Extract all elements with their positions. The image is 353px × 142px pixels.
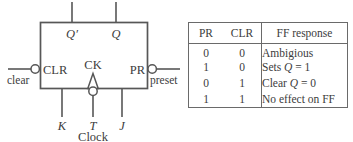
cell-pr: 0 [189,44,224,60]
cell-clr: 1 [223,76,262,92]
ck-port-label: CK [84,58,101,72]
response-variable: Q [290,77,298,89]
table-row: 1 1 No effect on FF [189,92,348,108]
clr-port-label: CLR [43,63,68,77]
table-row: 1 0 Sets Q = 1 [189,60,348,76]
pr-port-label: PR [130,63,146,77]
cell-response: Ambigious [262,44,348,60]
j-input-label: J [119,119,126,133]
q-output-label: Q [111,27,120,41]
header-clr: CLR [223,23,262,44]
cell-clr: 0 [223,60,262,76]
header-ff-response: FF response [262,23,348,44]
cell-response: Sets Q = 1 [262,60,348,76]
table-row: 0 1 Clear Q = 0 [189,76,348,92]
clear-wire-label: clear [7,74,30,86]
table-body: 0 0 Ambigious 1 0 Sets Q = 1 0 1 Clear Q… [189,44,348,108]
response-suffix: = 1 [292,61,310,73]
response-prefix: Sets [262,61,284,73]
ff-response-table: PR CLR FF response 0 0 Ambigious 1 0 Set… [188,22,348,108]
cell-response: Clear Q = 0 [262,76,348,92]
q-not-output-label: Q′ [66,27,78,41]
figure-root: Q′ Q CLR PR CK clear preset K T J Clock … [0,0,353,142]
cell-pr: 0 [189,76,224,92]
preset-inversion-bubble-icon [148,65,156,73]
cell-clr: 0 [223,44,262,60]
table-header-row: PR CLR FF response [189,23,348,44]
response-suffix: = 0 [298,77,316,89]
ff-response-table-wrap: PR CLR FF response 0 0 Ambigious 1 0 Set… [188,22,345,108]
clock-inversion-bubble-icon [89,87,97,95]
clock-caption-label: Clock [78,130,109,142]
table-head: PR CLR FF response [189,23,348,44]
cell-clr: 1 [223,92,262,108]
header-pr: PR [189,23,224,44]
clear-inversion-bubble-icon [31,65,39,73]
clock-edge-triangle-icon [88,74,98,89]
cell-pr: 1 [189,60,224,76]
cell-response: No effect on FF [262,92,348,108]
response-prefix: Clear [262,77,290,89]
table-row: 0 0 Ambigious [189,44,348,60]
k-input-label: K [57,119,67,133]
preset-wire-label: preset [150,74,178,87]
cell-pr: 1 [189,92,224,108]
